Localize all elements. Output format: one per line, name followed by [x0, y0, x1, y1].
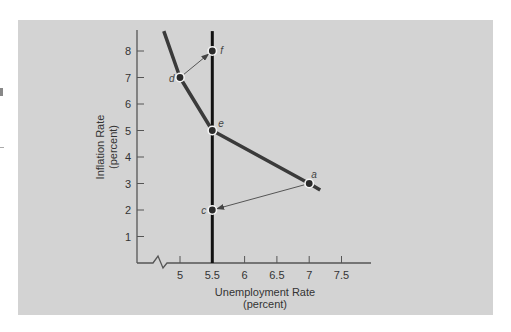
x-tick-label: 5.5	[205, 269, 220, 281]
y-axis-title: Inflation Rate	[94, 115, 106, 180]
y-tick-label: 2	[125, 204, 131, 216]
axes: 1234567855.566.577.5Unemployment Rate(pe…	[94, 30, 371, 310]
x-axis-title: Unemployment Rate	[215, 286, 315, 298]
point-a-label: a	[311, 169, 317, 180]
point-f-marker	[208, 47, 216, 55]
x-tick-label: 6.5	[269, 269, 284, 281]
y-tick-label: 4	[125, 151, 131, 163]
y-tick-label: 7	[125, 72, 131, 84]
x-tick-label: 6	[242, 269, 248, 281]
x-tick-label: 7	[306, 269, 312, 281]
point-c-marker	[208, 206, 216, 214]
point-d-marker	[176, 73, 184, 81]
x-tick-label: 7.5	[334, 269, 349, 281]
short-run-curve	[164, 31, 320, 190]
series-layer	[164, 31, 320, 263]
x-tick-label: 5	[177, 269, 183, 281]
y-tick-label: 5	[125, 125, 131, 137]
arrow-d-to-f	[184, 54, 209, 74]
arrow-a-to-c	[217, 185, 304, 209]
point-f-label: f	[220, 45, 224, 56]
point-a-marker	[305, 179, 313, 187]
y-tick-label: 8	[125, 45, 131, 57]
y-tick-label: 6	[125, 98, 131, 110]
points-layer	[176, 47, 314, 214]
edge-mark	[0, 147, 4, 148]
point-e-label: e	[218, 118, 224, 129]
phillips-curve-chart: 1234567855.566.577.5Unemployment Rate(pe…	[0, 0, 511, 332]
y-axis-subtitle: (percent)	[107, 125, 119, 169]
arrows-layer	[184, 54, 305, 209]
y-tick-label: 1	[125, 231, 131, 243]
x-axis-subtitle: (percent)	[243, 298, 287, 310]
y-tick-label: 3	[125, 178, 131, 190]
edge-mark	[0, 88, 3, 96]
point-c-label: c	[201, 205, 206, 216]
point-e-marker	[208, 126, 216, 134]
point-d-label: d	[169, 73, 175, 84]
labels-layer: acdef	[169, 45, 317, 216]
x-axis-line	[137, 256, 371, 268]
